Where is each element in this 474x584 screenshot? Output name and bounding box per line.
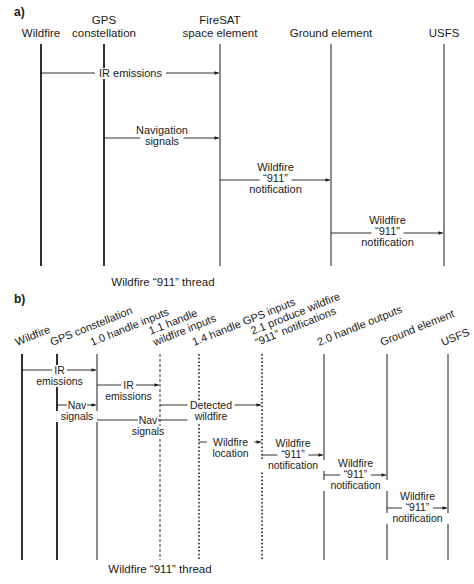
lifeline-header-line: Ground element (290, 27, 373, 39)
message-label: emissions (36, 375, 83, 387)
part-a-label: a) (14, 5, 25, 19)
lifeline-header: FireSATspace element (183, 14, 259, 39)
message: IR emissions (41, 67, 219, 79)
message-label: signals (132, 425, 165, 437)
message: Wildfire“911”notification (321, 457, 390, 491)
message: Wildfirelocation (199, 436, 261, 459)
message: Navsignals (97, 414, 198, 437)
message-label: wildfire (194, 410, 228, 422)
message-label: notification (392, 512, 442, 524)
message: Wildfire“911”notification (331, 214, 443, 248)
message-label: IR emissions (99, 67, 162, 79)
sequence-diagram: a) WildfireGPSconstellationFireSATspace … (0, 0, 474, 584)
part-a-messages: IR emissionsNavigationsignalsWildfire“91… (41, 67, 443, 248)
lifeline-header-line: space element (183, 27, 259, 39)
message-label: notification (361, 236, 414, 248)
message-label: notification (268, 459, 318, 471)
message-label: notification (249, 183, 302, 195)
lifeline-header: Wildfire (22, 27, 60, 39)
lifeline-header: Wildfire (13, 323, 51, 348)
message: Wildfire“911”notification (383, 490, 452, 524)
message: Wildfire“911”notification (220, 161, 330, 195)
message: Wildfire“911”notification (259, 437, 328, 471)
message: IRemissions (97, 379, 159, 402)
message-label: notification (330, 479, 380, 491)
message-label: signals (145, 135, 180, 147)
message: Detectedwildfire (160, 399, 261, 422)
lifeline-header: GPSconstellation (72, 14, 136, 39)
part-b: b) WildfireGPS constellation1.0 handle i… (13, 290, 471, 575)
lifeline-header-line: Wildfire (13, 323, 51, 348)
lifeline-header-line: GPS (92, 14, 117, 26)
lifeline-header-line: Wildfire (22, 27, 60, 39)
message: Navigationsignals (104, 124, 219, 147)
message-label: location (212, 447, 248, 459)
message: Navsignals (56, 399, 98, 422)
lifeline-header-line: USFS (429, 27, 460, 39)
lifeline-header-line: USFS (439, 326, 471, 348)
lifeline-header-line: FireSAT (199, 14, 240, 26)
part-b-caption: Wildfire “911” thread (108, 563, 211, 575)
message-label: emissions (105, 390, 152, 402)
part-a-caption: Wildfire “911” thread (111, 276, 214, 288)
lifeline-header: USFS (439, 326, 471, 348)
message-label: signals (61, 410, 94, 422)
lifeline-header: USFS (429, 27, 460, 39)
lifeline-header-line: constellation (72, 27, 136, 39)
part-a: a) WildfireGPSconstellationFireSATspace … (14, 5, 460, 288)
part-b-label: b) (14, 292, 25, 306)
message: IRemissions (22, 364, 96, 387)
lifeline-header: Ground element (290, 27, 373, 39)
